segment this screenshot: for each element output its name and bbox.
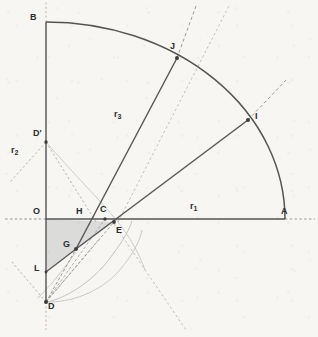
point-label-J: J — [170, 42, 175, 51]
point-dot-J — [175, 56, 179, 60]
point-label-E: E — [116, 226, 122, 235]
point-dot-I — [246, 118, 250, 122]
dotted-ray-dprime-right — [46, 142, 96, 222]
radius-label-r2-sub: 2 — [15, 149, 19, 156]
radius-label-r3: r3 — [114, 110, 121, 119]
point-dot-G — [74, 247, 78, 251]
radius-label-r1-sub: 1 — [194, 205, 198, 212]
ray-g-to-i — [76, 120, 248, 249]
point-label-G: G — [63, 240, 70, 249]
dashed-ray-beyond-i — [248, 78, 288, 120]
radius-label-r2-text: r — [11, 145, 15, 155]
radius-label-r3-text: r — [114, 109, 118, 119]
point-label-C: C — [100, 205, 107, 214]
dashed-ray-beyond-j — [177, 6, 196, 58]
point-label-H: H — [76, 207, 83, 216]
point-label-O: O — [33, 207, 40, 216]
point-dot-E — [112, 220, 116, 224]
radius-label-r1: r1 — [190, 202, 197, 211]
dotted-long-ray-lower — [114, 224, 186, 330]
point-label-B: B — [30, 13, 37, 22]
dotted-ray-d-left — [12, 262, 46, 302]
point-dot-Dp — [44, 140, 47, 143]
radius-label-r2: r2 — [11, 146, 18, 155]
radius-label-r3-sub: 3 — [118, 113, 122, 120]
geometry-figure — [0, 0, 318, 337]
radius-label-r1-text: r — [190, 201, 194, 211]
point-label-D-prime: D' — [33, 129, 42, 138]
point-label-D: D — [48, 302, 55, 311]
ray-g-to-j — [76, 58, 177, 249]
point-label-L: L — [34, 264, 40, 273]
point-dot-C — [103, 217, 106, 220]
point-dot-L — [45, 271, 48, 274]
point-label-A: A — [281, 207, 288, 216]
point-label-I: I — [255, 112, 258, 121]
